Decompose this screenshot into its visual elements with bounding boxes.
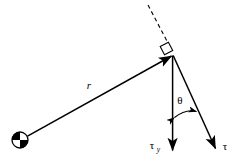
diagram-canvas: r θ τ y τ: [0, 0, 242, 164]
torque-y-label-base: τ: [150, 139, 155, 151]
dashed-extension-line: [148, 5, 169, 44]
torque-diagram: r θ τ y τ: [0, 0, 242, 164]
pivot-point: [12, 132, 28, 148]
angle-arc: [175, 111, 197, 118]
torque-y-label: τ y: [150, 139, 161, 154]
angle-label: θ: [177, 94, 182, 106]
torque-y-label-subscript: y: [156, 145, 161, 154]
torque-label: τ: [223, 140, 228, 152]
right-angle-marker: [160, 42, 173, 55]
radius-vector: [28, 56, 172, 136]
radius-label: r: [87, 79, 92, 91]
